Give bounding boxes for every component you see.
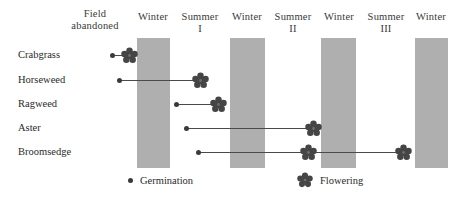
- germination-dot-icon: [174, 102, 179, 107]
- germination-dot-icon: [196, 150, 201, 155]
- lifecycle-track: [186, 128, 313, 129]
- germination-dot-icon: [128, 178, 133, 183]
- flower-icon: [297, 172, 313, 188]
- lifecycle-track: [119, 80, 200, 81]
- column-label-8: Winter: [391, 11, 470, 23]
- succession-diagram: Field abandonedWinterSummer IWinterSumme…: [0, 0, 470, 205]
- flower-icon: [192, 72, 209, 89]
- germination-dot-icon: [110, 53, 115, 58]
- species-label-crabgrass: Crabgrass: [18, 49, 60, 61]
- winter-band-1: [137, 38, 170, 168]
- species-label-aster: Aster: [18, 122, 41, 134]
- flower-icon: [121, 47, 138, 64]
- legend-label-germination: Germination: [140, 175, 193, 186]
- germination-dot-icon: [117, 78, 122, 83]
- legend-item-flowering: Flowering: [297, 172, 363, 188]
- species-label-broomsedge: Broomsedge: [18, 146, 71, 158]
- germination-dot-icon: [184, 126, 189, 131]
- winter-band-3: [321, 38, 356, 168]
- legend-item-germination: Germination: [128, 175, 193, 186]
- species-label-horseweed: Horseweed: [18, 74, 65, 86]
- flower-icon: [300, 144, 317, 161]
- winter-band-4: [415, 38, 448, 168]
- species-label-ragweed: Ragweed: [18, 98, 57, 110]
- winter-band-2: [230, 38, 265, 168]
- flower-icon: [210, 96, 227, 113]
- flower-icon: [395, 144, 412, 161]
- flower-icon: [305, 120, 322, 137]
- legend-label-flowering: Flowering: [320, 175, 363, 186]
